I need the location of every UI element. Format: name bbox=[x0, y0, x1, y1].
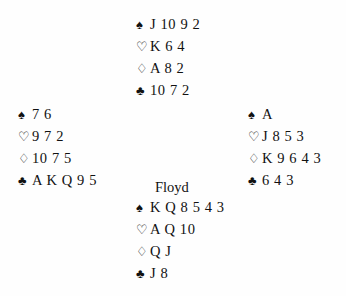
east-clubs-line: ♣ 6 4 3 bbox=[248, 169, 321, 191]
club-suit-symbol: ♣ bbox=[248, 170, 261, 192]
north-hearts-cards: K 6 4 bbox=[149, 35, 185, 57]
spade-suit-symbol: ♠ bbox=[248, 104, 261, 126]
east-spades-line: ♠ A bbox=[248, 103, 321, 125]
north-diamonds-line: ♢ A 8 2 bbox=[136, 57, 200, 79]
north-clubs-line: ♣ 10 7 2 bbox=[136, 79, 200, 101]
west-spades-line: ♠ 7 6 bbox=[18, 103, 97, 125]
east-diamonds-cards: K 9 6 4 3 bbox=[261, 147, 321, 169]
south-spades-cards: K Q 8 5 4 3 bbox=[149, 196, 225, 218]
south-diamonds-cards: Q J bbox=[149, 240, 172, 262]
east-diamonds-line: ♢ K 9 6 4 3 bbox=[248, 147, 321, 169]
hand-west: ♠ 7 6 ♡ 9 7 2 ♢ 10 7 5 ♣ A K Q 9 5 bbox=[18, 103, 97, 191]
club-suit-symbol: ♣ bbox=[136, 80, 149, 102]
diamond-suit-symbol: ♢ bbox=[136, 241, 149, 263]
west-diamonds-cards: 10 7 5 bbox=[31, 147, 72, 169]
hand-north: ♠ J 10 9 2 ♡ K 6 4 ♢ A 8 2 ♣ 10 7 2 bbox=[136, 13, 200, 101]
north-hearts-line: ♡ K 6 4 bbox=[136, 35, 200, 57]
west-hearts-line: ♡ 9 7 2 bbox=[18, 125, 97, 147]
spade-suit-symbol: ♠ bbox=[18, 104, 31, 126]
north-spades-cards: J 10 9 2 bbox=[149, 13, 200, 35]
hand-south: ♠ K Q 8 5 4 3 ♡ A Q 10 ♢ Q J ♣ J 8 bbox=[136, 196, 225, 284]
west-diamonds-line: ♢ 10 7 5 bbox=[18, 147, 97, 169]
club-suit-symbol: ♣ bbox=[136, 263, 149, 285]
south-player-name: Floyd bbox=[155, 177, 189, 198]
south-clubs-cards: J 8 bbox=[149, 262, 168, 284]
west-clubs-cards: A K Q 9 5 bbox=[31, 169, 97, 191]
south-spades-line: ♠ K Q 8 5 4 3 bbox=[136, 196, 225, 218]
east-hearts-cards: J 8 5 3 bbox=[261, 125, 304, 147]
diamond-suit-symbol: ♢ bbox=[248, 148, 261, 170]
west-spades-cards: 7 6 bbox=[31, 103, 52, 125]
south-hearts-line: ♡ A Q 10 bbox=[136, 218, 225, 240]
heart-suit-symbol: ♡ bbox=[136, 36, 149, 58]
north-clubs-cards: 10 7 2 bbox=[149, 79, 190, 101]
south-clubs-line: ♣ J 8 bbox=[136, 262, 225, 284]
heart-suit-symbol: ♡ bbox=[248, 126, 261, 148]
west-clubs-line: ♣ A K Q 9 5 bbox=[18, 169, 97, 191]
diamond-suit-symbol: ♢ bbox=[136, 58, 149, 80]
west-hearts-cards: 9 7 2 bbox=[31, 125, 64, 147]
spade-suit-symbol: ♠ bbox=[136, 197, 149, 219]
heart-suit-symbol: ♡ bbox=[136, 219, 149, 241]
diamond-suit-symbol: ♢ bbox=[18, 148, 31, 170]
east-spades-cards: A bbox=[261, 103, 273, 125]
spade-suit-symbol: ♠ bbox=[136, 14, 149, 36]
club-suit-symbol: ♣ bbox=[18, 170, 31, 192]
bridge-deal-diagram: ♠ J 10 9 2 ♡ K 6 4 ♢ A 8 2 ♣ 10 7 2 ♠ 7 … bbox=[0, 0, 346, 296]
north-diamonds-cards: A 8 2 bbox=[149, 57, 184, 79]
south-diamonds-line: ♢ Q J bbox=[136, 240, 225, 262]
heart-suit-symbol: ♡ bbox=[18, 126, 31, 148]
hand-east: ♠ A ♡ J 8 5 3 ♢ K 9 6 4 3 ♣ 6 4 3 bbox=[248, 103, 321, 191]
east-clubs-cards: 6 4 3 bbox=[261, 169, 294, 191]
north-spades-line: ♠ J 10 9 2 bbox=[136, 13, 200, 35]
east-hearts-line: ♡ J 8 5 3 bbox=[248, 125, 321, 147]
south-hearts-cards: A Q 10 bbox=[149, 218, 196, 240]
